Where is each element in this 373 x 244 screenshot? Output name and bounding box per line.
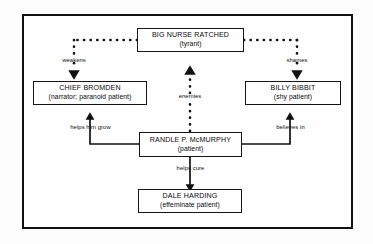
node-big-nurse-ratched[interactable]: BIG NURSE RATCHED (tyrant) — [137, 28, 244, 52]
node-subtitle: (patient) — [178, 145, 204, 153]
edge-label-shames: shames — [279, 57, 315, 63]
node-dale-harding[interactable]: DALE HARDING (effeminate patient) — [138, 189, 242, 213]
edge-label-helps-him-grow: helps him grow — [60, 124, 121, 130]
node-subtitle: (effeminate patient) — [160, 201, 220, 209]
node-title: CHIEF BROMDEN — [59, 85, 120, 93]
node-subtitle: (narrator; paranoid patient) — [49, 93, 132, 101]
node-subtitle: (tyrant) — [179, 40, 201, 48]
node-billy-bibbit[interactable]: BILLY BIBBIT (shy patient) — [245, 81, 341, 105]
edge-label-helps-cure: helps cure — [168, 165, 213, 171]
node-title: RANDLE P. McMURPHY — [150, 137, 231, 145]
node-title: BIG NURSE RATCHED — [152, 32, 229, 40]
node-subtitle: (shy patient) — [274, 93, 312, 101]
node-title: DALE HARDING — [163, 193, 218, 201]
node-randle-p-mcmurphy[interactable]: RANDLE P. McMURPHY (patient) — [139, 132, 242, 157]
edge-label-believes-in: believes in — [268, 124, 313, 130]
diagram-canvas: BIG NURSE RATCHED (tyrant) CHIEF BROMDEN… — [0, 0, 373, 244]
edge-label-enemies: enemies — [170, 93, 210, 99]
node-title: BILLY BIBBIT — [271, 85, 316, 93]
node-chief-bromden[interactable]: CHIEF BROMDEN (narrator; paranoid patien… — [33, 81, 147, 105]
edge-label-weakens: weakens — [55, 57, 93, 63]
